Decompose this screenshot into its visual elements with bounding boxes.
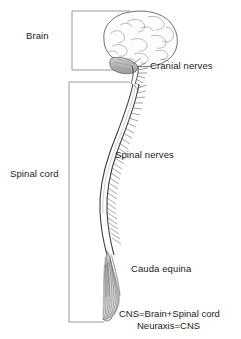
cauda-equina-illustration bbox=[103, 250, 121, 321]
label-brain: Brain bbox=[26, 30, 49, 41]
label-spinal-cord: Spinal cord bbox=[10, 168, 59, 179]
spinal-cord-illustration bbox=[100, 84, 139, 255]
label-cauda-equina: Cauda equina bbox=[131, 263, 191, 274]
summary-cns-definition: CNS=Brain+Spinal cord bbox=[119, 308, 220, 320]
cns-diagram: Brain Cranial nerves Spinal cord Spinal … bbox=[0, 0, 241, 339]
summary-neuraxis-definition: Neuraxis=CNS bbox=[137, 320, 200, 332]
label-cranial-nerves: Cranial nerves bbox=[150, 60, 213, 71]
label-spinal-nerves: Spinal nerves bbox=[115, 149, 174, 160]
